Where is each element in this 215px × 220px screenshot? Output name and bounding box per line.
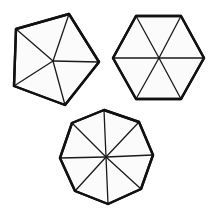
octagon-shape [60, 110, 153, 204]
polygon-diagram [0, 0, 215, 220]
hexagon-shape [113, 16, 204, 99]
pentagon-shape [14, 14, 99, 105]
